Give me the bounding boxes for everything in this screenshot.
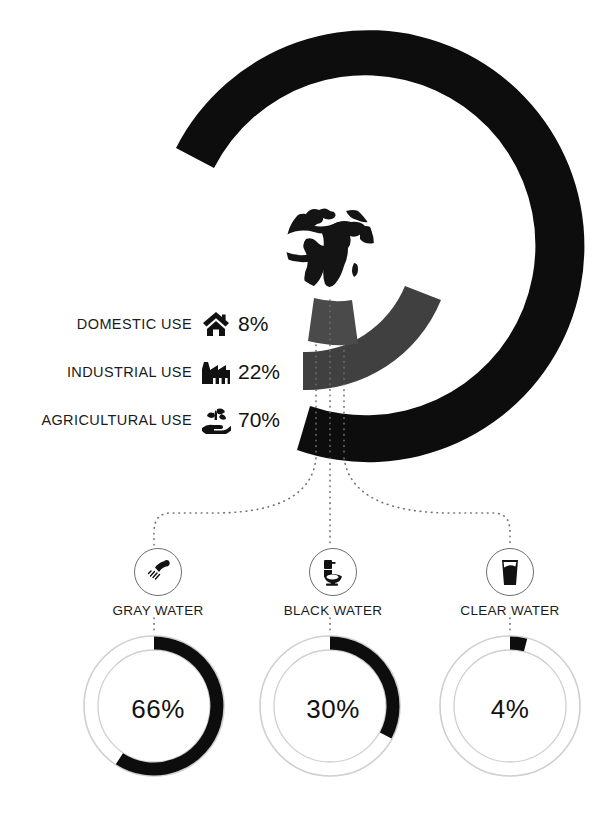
legend-row-industrial[interactable]: INDUSTRIAL USE 22% [20, 348, 290, 396]
gauge-dial-clear-water: 4% [436, 635, 584, 783]
gauge-label-gray-water: GRAY WATER [68, 603, 248, 618]
water-use-legend: DOMESTIC USE 8% INDUSTRIAL USE 22% AGRIC… [20, 300, 290, 444]
gauge-group-gray-water[interactable]: GRAY WATER 66% [68, 548, 248, 783]
legend-label-domestic: DOMESTIC USE [77, 316, 192, 332]
factory-icon [201, 357, 231, 387]
gauge-value-black-water: 30% [259, 635, 407, 783]
legend-label-industrial: INDUSTRIAL USE [67, 364, 192, 380]
shower-icon [134, 548, 182, 596]
gauge-group-black-water[interactable]: BLACK WATER 30% [243, 548, 423, 783]
gauge-label-clear-water: CLEAR WATER [420, 603, 600, 618]
legend-row-domestic[interactable]: DOMESTIC USE 8% [20, 300, 290, 348]
toilet-icon [309, 548, 357, 596]
house-icon [201, 309, 231, 339]
legend-value-industrial: 22% [238, 360, 290, 384]
gauge-dial-black-water: 30% [259, 635, 407, 783]
gauge-value-clear-water: 4% [436, 635, 584, 783]
globe-icon [286, 208, 374, 287]
water-glass-icon [486, 548, 534, 596]
gauge-dial-gray-water: 66% [84, 635, 232, 783]
gauge-label-black-water: BLACK WATER [243, 603, 423, 618]
legend-value-domestic: 8% [238, 312, 290, 336]
legend-value-agricultural: 70% [238, 408, 290, 432]
legend-label-agricultural: AGRICULTURAL USE [41, 412, 192, 428]
arc-domestic-use [308, 298, 358, 345]
hand-plant-icon [201, 405, 231, 435]
gauge-group-clear-water[interactable]: CLEAR WATER 4% [420, 548, 600, 783]
gauge-value-gray-water: 66% [84, 635, 232, 783]
legend-row-agricultural[interactable]: AGRICULTURAL USE 70% [20, 396, 290, 444]
